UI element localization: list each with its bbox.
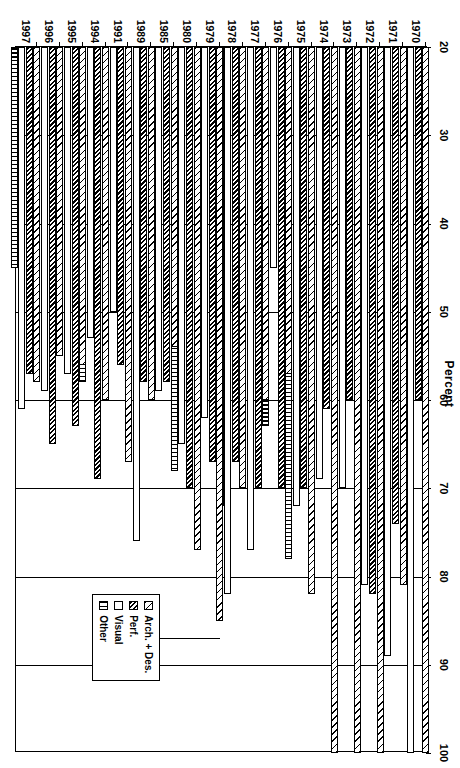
category-label: 1978 — [226, 3, 238, 43]
bar-visual — [87, 47, 94, 338]
legend-swatch-icon — [144, 601, 153, 610]
legend-item-label: Visual — [113, 615, 124, 644]
bar-arch-des — [239, 47, 246, 488]
bar-perf — [26, 47, 33, 374]
bar-perf — [278, 47, 285, 488]
category-label: 1970 — [410, 3, 422, 43]
bar-visual — [178, 47, 185, 444]
bar-perf — [346, 47, 353, 400]
category-label: 1991 — [112, 3, 124, 43]
axis-tick-label: 90 — [438, 659, 450, 671]
category-label: 1985 — [158, 3, 170, 43]
category-label: 1976 — [272, 3, 284, 43]
bar-perf — [49, 47, 56, 444]
axis-tick-label: 40 — [438, 217, 450, 229]
legend-item[interactable]: Perf. — [128, 601, 139, 673]
bar-perf — [186, 47, 193, 488]
bar-perf — [232, 47, 239, 462]
bar-arch-des — [331, 47, 338, 753]
bar-arch-des — [56, 47, 63, 356]
bar-perf — [300, 47, 307, 488]
bar-perf — [163, 47, 170, 382]
legend-item[interactable]: Arch. + Des. — [143, 601, 154, 673]
bar-perf — [117, 47, 124, 365]
axis-tick-label: 70 — [438, 482, 450, 494]
category-label: 1977 — [249, 3, 261, 43]
bar-perf — [392, 47, 399, 524]
bar-perf — [94, 47, 101, 479]
bar-visual — [201, 47, 208, 418]
bar-perf — [369, 47, 376, 594]
chart-canvas: Percent 2030405060708090100 197019711972… — [0, 0, 460, 768]
bar-visual — [384, 47, 391, 656]
category-label: 1997 — [20, 3, 32, 43]
axis-tick-label: 20 — [438, 41, 450, 53]
bar-arch-des — [400, 47, 407, 585]
bar-arch-des — [148, 47, 155, 400]
bar-visual — [110, 47, 117, 312]
bar-visual — [270, 47, 277, 268]
bar-arch-des — [354, 47, 361, 753]
bar-visual — [224, 47, 231, 594]
bar-arch-des — [125, 47, 132, 462]
legend-swatch-icon — [114, 601, 123, 610]
chart-stage: Percent 2030405060708090100 197019711972… — [0, 0, 460, 768]
chart-legend[interactable]: Arch. + Des.Perf.VisualOther — [92, 594, 160, 681]
legend-item[interactable]: Visual — [113, 601, 124, 673]
legend-swatch-icon — [129, 601, 138, 610]
bar-visual — [18, 47, 25, 409]
legend-item-label: Other — [98, 615, 109, 642]
bar-arch-des — [285, 47, 292, 374]
bar-perf — [72, 47, 79, 426]
category-label: 1995 — [66, 3, 78, 43]
category-label: 1996 — [43, 3, 55, 43]
bar-visual — [361, 47, 368, 585]
axis-tick — [426, 753, 431, 754]
bar-arch-des — [216, 47, 223, 621]
bar-visual — [316, 47, 323, 479]
bar-visual — [247, 47, 254, 550]
category-label: 1972 — [364, 3, 376, 43]
bar-arch-des — [308, 47, 315, 594]
bar-visual — [339, 47, 346, 488]
legend-swatch-icon — [99, 601, 108, 610]
bar-arch-des — [262, 47, 269, 400]
bar-perf — [255, 47, 262, 488]
bar-visual — [293, 47, 300, 506]
bar-perf — [323, 47, 330, 409]
category-label: 1980 — [181, 3, 193, 43]
category-label: 1974 — [318, 3, 330, 43]
category-label: 1975 — [295, 3, 307, 43]
category-label: 1979 — [204, 3, 216, 43]
legend-item-label: Perf. — [128, 615, 139, 637]
bar-arch-des — [194, 47, 201, 550]
bar-visual — [407, 47, 414, 753]
legend-item[interactable]: Other — [98, 601, 109, 673]
chart-title: Percent — [442, 0, 456, 768]
bar-arch-des — [171, 47, 178, 347]
axis-tick-label: 80 — [438, 570, 450, 582]
bar-arch-des — [33, 47, 40, 382]
bar-visual — [133, 47, 140, 541]
bar-arch-des — [79, 47, 86, 365]
category-label: 1973 — [341, 3, 353, 43]
bar-visual — [155, 47, 162, 391]
axis-tick-label: 60 — [438, 394, 450, 406]
bar-perf — [140, 47, 147, 382]
legend-item-label: Arch. + Des. — [143, 615, 154, 673]
bar-arch-des — [422, 47, 429, 753]
plot-area: 2030405060708090100 19701971197219731974… — [15, 46, 427, 752]
bar-perf — [209, 47, 216, 462]
bar-arch-des — [102, 47, 109, 400]
category-label: 1989 — [135, 3, 147, 43]
bar-visual — [41, 47, 48, 391]
bar-perf — [415, 47, 422, 400]
bar-arch-des — [377, 47, 384, 753]
axis-tick-label: 30 — [438, 129, 450, 141]
axis-tick-label: 100 — [438, 744, 450, 762]
axis-tick-label: 50 — [438, 306, 450, 318]
bar-other — [11, 47, 18, 268]
bar-visual — [64, 47, 71, 374]
legend-leader-line — [160, 638, 220, 639]
category-label: 1971 — [387, 3, 399, 43]
